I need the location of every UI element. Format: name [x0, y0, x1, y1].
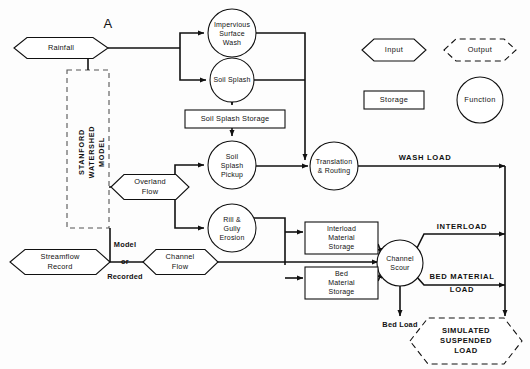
interload-storage-label-line2: Material	[328, 234, 355, 241]
interload-label: INTERLOAD	[437, 222, 488, 231]
node-soil-splash-storage[interactable]: Soil Splash Storage	[185, 110, 285, 128]
diagram-canvas: STANFORD WATERSHED MODEL	[0, 0, 530, 369]
model-label: Model	[114, 240, 136, 249]
rill-label-line1: Rill &	[223, 216, 241, 223]
node-rainfall[interactable]: Rainfall	[14, 38, 108, 59]
interload-storage-label-line3: Storage	[329, 243, 355, 251]
impervious-label-line2: Surface	[219, 30, 245, 37]
legend-item-input: Input	[362, 39, 426, 61]
wash-load-label: WASH LOAD	[399, 153, 452, 162]
translation-label-line1: Translation	[316, 158, 353, 165]
simulated-load-label-line2: SUSPENDED	[440, 336, 492, 345]
bed-load-label: Bed Load	[382, 320, 418, 329]
interload-storage-label-line1: Interload	[327, 225, 356, 232]
rill-label-line3: Erosion	[219, 234, 244, 241]
simulated-load-label-line1: SIMULATED	[442, 326, 490, 335]
bed-material-load-label-line1: BED MATERIAL	[429, 272, 494, 281]
legend-item-output: Output	[444, 39, 516, 61]
soil-splash-storage-label: Soil Splash Storage	[201, 114, 270, 123]
overland-flow-label-line1: Overland	[134, 177, 166, 186]
node-soil-splash[interactable]: Soil Splash	[210, 58, 254, 102]
node-translation-routing[interactable]: Translation & Routing	[310, 142, 358, 190]
stanford-model-label-line1: STANFORD	[77, 129, 86, 175]
overland-flow-label-line2: Flow	[142, 187, 159, 196]
pickup-label-line2: Splash	[221, 162, 244, 170]
stanford-model-label-line3: MODEL	[97, 137, 106, 167]
node-overland-flow[interactable]: Overland Flow	[111, 175, 189, 200]
node-interload-material-storage[interactable]: Interload Material Storage	[305, 222, 378, 254]
recorded-label: Recorded	[107, 272, 143, 281]
legend-item-storage: Storage	[364, 91, 424, 109]
rainfall-label: Rainfall	[48, 43, 74, 52]
bed-storage-label-line2: Material	[328, 279, 355, 286]
pickup-label-line1: Soil	[226, 153, 239, 160]
node-soil-splash-pickup[interactable]: Soil Splash Pickup	[208, 141, 256, 189]
or-label: or	[121, 257, 129, 266]
node-channel-flow[interactable]: Channel Flow	[143, 250, 218, 275]
legend-output-label: Output	[468, 45, 493, 54]
bed-storage-label-line1: Bed	[335, 270, 348, 277]
impervious-label-line1: Impervious	[214, 21, 251, 29]
legend-item-function: Function	[457, 77, 503, 123]
rill-label-line2: Gully	[224, 225, 241, 233]
soil-splash-label: Soil Splash	[213, 76, 250, 84]
channel-flow-label-line1: Channel	[166, 252, 195, 261]
node-simulated-suspended-load[interactable]: SIMULATED SUSPENDED LOAD	[410, 318, 522, 364]
bed-storage-label-line3: Storage	[329, 288, 355, 296]
translation-label-line2: & Routing	[318, 167, 351, 175]
node-bed-material-storage[interactable]: Bed Material Storage	[305, 267, 378, 299]
channel-scour-label-line1: Channel	[386, 255, 414, 262]
streamflow-record-label-line1: Streamflow	[41, 252, 80, 261]
sediment-routing-diagram: STANFORD WATERSHED MODEL	[0, 0, 530, 369]
node-streamflow-record[interactable]: Streamflow Record	[10, 250, 110, 275]
node-rill-gully-erosion[interactable]: Rill & Gully Erosion	[208, 204, 256, 252]
node-impervious-surface-wash[interactable]: Impervious Surface Wash	[208, 9, 256, 57]
impervious-label-line3: Wash	[223, 39, 241, 46]
node-channel-scour[interactable]: Channel Scour	[377, 240, 423, 286]
pickup-label-line3: Pickup	[221, 171, 243, 179]
channel-scour-label-line2: Scour	[390, 264, 410, 271]
legend-storage-label: Storage	[380, 95, 409, 104]
stanford-model-label-line2: WATERSHED	[87, 126, 96, 179]
streamflow-record-label-line2: Record	[47, 262, 72, 271]
legend-input-label: Input	[385, 45, 403, 54]
channel-flow-label-line2: Flow	[172, 262, 189, 271]
bed-material-load-label-line2: LOAD	[450, 285, 474, 294]
legend-function-label: Function	[464, 95, 496, 104]
simulated-load-label-line3: LOAD	[454, 346, 478, 355]
panel-label-a: A	[103, 16, 112, 31]
